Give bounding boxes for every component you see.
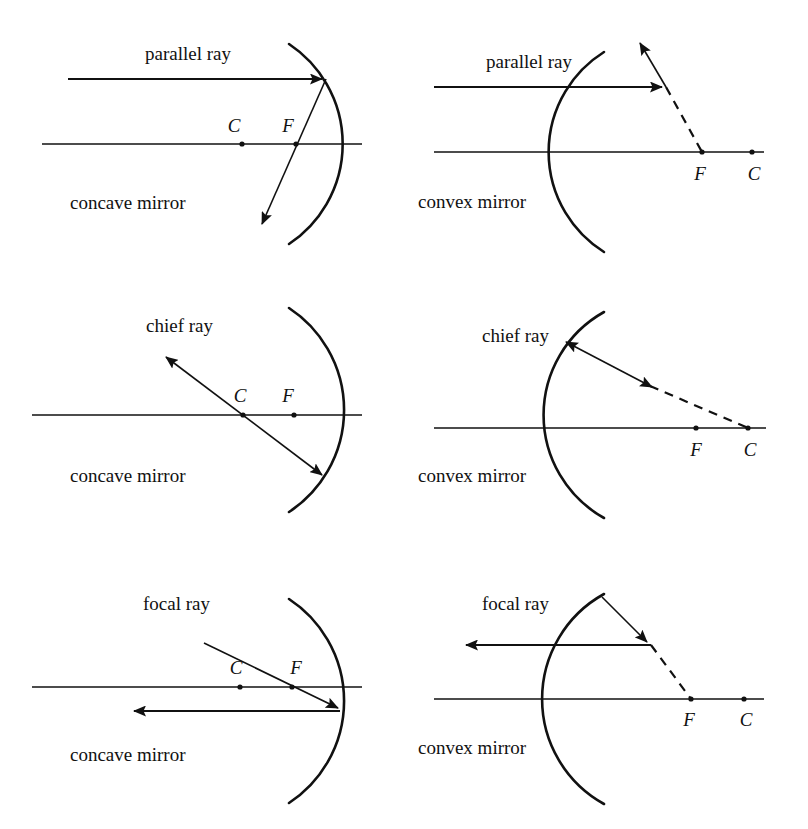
- center-of-curvature-point: [749, 149, 754, 154]
- focal-point: [293, 141, 298, 146]
- panel-concave-chief-svg: C F chief ray concave mirror: [0, 280, 404, 556]
- focal-point-label: F: [281, 385, 294, 406]
- center-of-curvature-point: [240, 412, 245, 417]
- focal-point: [289, 684, 294, 689]
- center-of-curvature-label: C: [744, 439, 757, 460]
- center-of-curvature-point: [237, 684, 242, 689]
- center-of-curvature-label: C: [228, 115, 241, 136]
- ray-type-label: chief ray: [146, 315, 213, 336]
- mirror-type-label: convex mirror: [418, 191, 527, 212]
- panel-concave-focal-svg: C F focal ray concave mirror: [0, 556, 404, 829]
- panel-convex-chief: F C chief ray convex mirror: [404, 280, 808, 556]
- ray-type-label: focal ray: [143, 593, 210, 614]
- center-of-curvature-label: C: [234, 385, 247, 406]
- panel-convex-focal-svg: F C focal ray convex mirror: [404, 556, 808, 829]
- focal-point-label: F: [281, 115, 294, 136]
- mirror-type-label: concave mirror: [70, 744, 186, 765]
- center-of-curvature-label: C: [740, 709, 753, 730]
- panel-concave-parallel-svg: C F parallel ray concave mirror: [0, 0, 404, 280]
- reflected-ray: [640, 43, 666, 87]
- virtual-ray-dashed: [666, 87, 702, 152]
- mirror-type-label: concave mirror: [70, 465, 186, 486]
- incoming-focal-ray: [204, 643, 338, 708]
- ray-type-label: chief ray: [482, 325, 549, 346]
- mirror-ray-diagram-figure: C F parallel ray concave mirror: [0, 0, 808, 829]
- panel-concave-chief: C F chief ray concave mirror: [0, 280, 404, 556]
- virtual-ray-dashed: [651, 645, 691, 699]
- incoming-focal-ray: [602, 597, 647, 642]
- panel-convex-focal: F C focal ray convex mirror: [404, 556, 808, 829]
- panel-concave-focal: C F focal ray concave mirror: [0, 556, 404, 829]
- focal-point-label: F: [689, 439, 702, 460]
- focal-point: [688, 696, 693, 701]
- center-of-curvature-label: C: [230, 657, 243, 678]
- focal-point: [693, 425, 698, 430]
- convex-mirror-arc: [544, 312, 604, 518]
- center-of-curvature-label: C: [748, 163, 761, 184]
- panel-concave-parallel: C F parallel ray concave mirror: [0, 0, 404, 280]
- center-of-curvature-point: [239, 141, 244, 146]
- focal-point-label: F: [693, 163, 706, 184]
- center-of-curvature-point: [741, 696, 746, 701]
- panel-convex-parallel-svg: F C parallel ray convex mirror: [404, 0, 808, 280]
- focal-point-label: F: [682, 709, 695, 730]
- mirror-type-label: convex mirror: [418, 737, 527, 758]
- concave-mirror-arc: [289, 599, 344, 803]
- ray-type-label: parallel ray: [145, 43, 231, 64]
- reflected-ray-through-focus: [262, 79, 326, 224]
- focal-point: [699, 149, 704, 154]
- mirror-type-label: convex mirror: [418, 465, 527, 486]
- concave-mirror-arc: [289, 308, 344, 512]
- ray-type-label: parallel ray: [486, 51, 572, 72]
- center-of-curvature-point: [745, 425, 750, 430]
- ray-type-label: focal ray: [482, 593, 549, 614]
- chief-ray-toward-center: [566, 342, 652, 387]
- mirror-type-label: concave mirror: [70, 192, 186, 213]
- focal-point: [291, 412, 296, 417]
- panel-convex-chief-svg: F C chief ray convex mirror: [404, 280, 808, 556]
- virtual-ray-dashed: [650, 386, 748, 428]
- panel-convex-parallel: F C parallel ray convex mirror: [404, 0, 808, 280]
- focal-point-label: F: [289, 657, 302, 678]
